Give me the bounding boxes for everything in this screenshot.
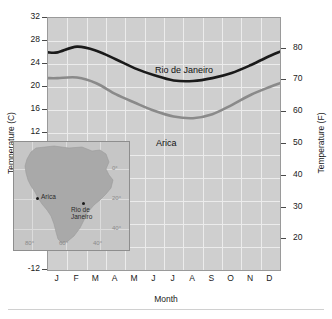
y-tick-celsius: 28 (16, 34, 40, 44)
x-tick-month: F (69, 273, 83, 283)
x-tick-month: D (262, 273, 276, 283)
y-axis-label-fahrenheit: Temperature (F) (316, 108, 326, 178)
y-tick-fahrenheit: 40 (293, 169, 317, 179)
y-tick-celsius: 32 (16, 11, 40, 21)
city-dot-rio-de-janeiro (82, 202, 85, 205)
y-tick-celsius: 20 (16, 80, 40, 90)
y-tick-celsius: 24 (16, 57, 40, 67)
x-tick-month: J (146, 273, 160, 283)
x-tick-month: A (108, 273, 122, 283)
city-label-arica: Arica (41, 193, 56, 200)
series-line (48, 47, 280, 82)
y-tickmark-fahrenheit (281, 238, 286, 239)
inset-longitude-label: 60° (59, 240, 68, 246)
y-tickmark-fahrenheit (281, 79, 286, 80)
x-tick-month: M (127, 273, 141, 283)
footer-divider (8, 309, 324, 310)
y-tick-fahrenheit: 30 (293, 201, 317, 211)
y-tick-fahrenheit: 80 (293, 42, 317, 52)
inset-latitude-label: 0° (112, 165, 118, 171)
temperature-chart-figure: Temperature (C) Temperature (F) Month 32… (0, 0, 332, 319)
y-tick-celsius: 12 (16, 126, 40, 136)
inset-latitude-label: 40° (112, 225, 121, 231)
y-tickmark-fahrenheit (281, 143, 286, 144)
y-tick-celsius: 16 (16, 103, 40, 113)
x-tick-month: A (185, 273, 199, 283)
y-tick-celsius: -12 (16, 263, 40, 273)
y-tickmark-fahrenheit (281, 48, 286, 49)
x-tick-month: J (50, 273, 64, 283)
series-label-rio-de-janeiro: Rio de Janeiro (155, 65, 213, 75)
y-tickmark-fahrenheit (281, 111, 286, 112)
series-label-arica: Arica (156, 138, 177, 148)
y-tick-fahrenheit: 60 (293, 105, 317, 115)
x-tick-month: J (166, 273, 180, 283)
inset-map-south-america: 0°20°40°80°60°40° AricaRio de Janeiro (13, 141, 130, 251)
y-tick-fahrenheit: 20 (293, 232, 317, 242)
y-tickmark-fahrenheit (281, 175, 286, 176)
city-dot-arica (36, 197, 39, 200)
y-tick-fahrenheit: 70 (293, 73, 317, 83)
x-tick-month: O (224, 273, 238, 283)
x-tick-month: S (204, 273, 218, 283)
x-tick-month: N (243, 273, 257, 283)
y-tick-fahrenheit: 50 (293, 137, 317, 147)
x-tick-month: M (88, 273, 102, 283)
inset-longitude-label: 80° (25, 240, 34, 246)
y-tickmark-fahrenheit (281, 207, 286, 208)
city-label-rio-de-janeiro: Rio de Janeiro (71, 206, 92, 220)
series-line (48, 77, 280, 118)
inset-longitude-label: 40° (93, 240, 102, 246)
x-axis-label-month: Month (0, 294, 332, 304)
inset-latitude-label: 20° (112, 195, 121, 201)
